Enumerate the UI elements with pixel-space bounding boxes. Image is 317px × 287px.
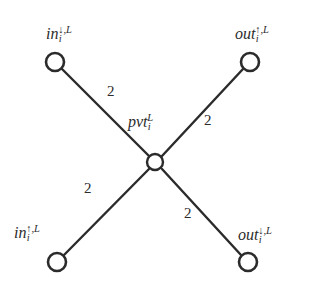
node-label-pvt-base: pvt	[128, 113, 148, 130]
node-label-out-down: outi↓,L	[238, 226, 272, 246]
node-label-in-down-layer: L	[66, 24, 72, 35]
edge-weight-lower-left: 2	[84, 181, 92, 196]
node-label-out-up: outi↑,L	[235, 25, 269, 45]
node-label-pvt-subscript: i	[148, 121, 151, 132]
edge-weight-upper-right: 2	[204, 113, 212, 128]
node-label-out-up-subscript: i	[256, 33, 259, 44]
node-out-down[interactable]	[239, 253, 257, 271]
gadget-diagram: ini↓,L outi↑,L pvtiL ini↑,L outi↓,L 2 2 …	[0, 0, 317, 287]
edge-weight-upper-left: 2	[107, 84, 115, 99]
node-label-in-up: ini↑,L	[14, 224, 40, 244]
node-label-pvt-superscript: L	[147, 112, 153, 123]
node-label-out-up-base: out	[235, 25, 255, 42]
node-out-up[interactable]	[241, 53, 259, 71]
node-label-in-down-subscript: i	[59, 33, 62, 44]
node-label-in-up-layer: L	[34, 223, 40, 234]
edge-lower-left	[64, 169, 149, 255]
node-label-pvt: pvtiL	[128, 113, 153, 133]
node-pvt[interactable]	[147, 154, 163, 170]
node-label-in-down-superscript: ↓,L	[58, 24, 72, 35]
node-in-down[interactable]	[46, 53, 64, 71]
node-label-in-up-base: in	[14, 224, 26, 241]
node-label-in-down-base: in	[46, 25, 58, 42]
node-label-out-down-base: out	[238, 226, 258, 243]
node-label-out-up-superscript: ↑,L	[255, 24, 269, 35]
edge-lower-right	[162, 169, 241, 255]
node-label-in-up-subscript: i	[27, 232, 30, 243]
edge-upper-right	[162, 69, 243, 156]
node-label-out-up-layer: L	[263, 24, 269, 35]
node-label-pvt-layer: L	[147, 112, 153, 123]
node-label-out-down-layer: L	[266, 225, 272, 236]
node-label-in-up-superscript: ↑,L	[26, 223, 40, 234]
node-label-in-down: ini↓,L	[46, 25, 72, 45]
node-in-up[interactable]	[48, 253, 66, 271]
node-label-out-down-superscript: ↓,L	[258, 225, 272, 236]
edge-weight-lower-right: 2	[184, 206, 192, 221]
node-label-out-down-subscript: i	[259, 234, 262, 245]
